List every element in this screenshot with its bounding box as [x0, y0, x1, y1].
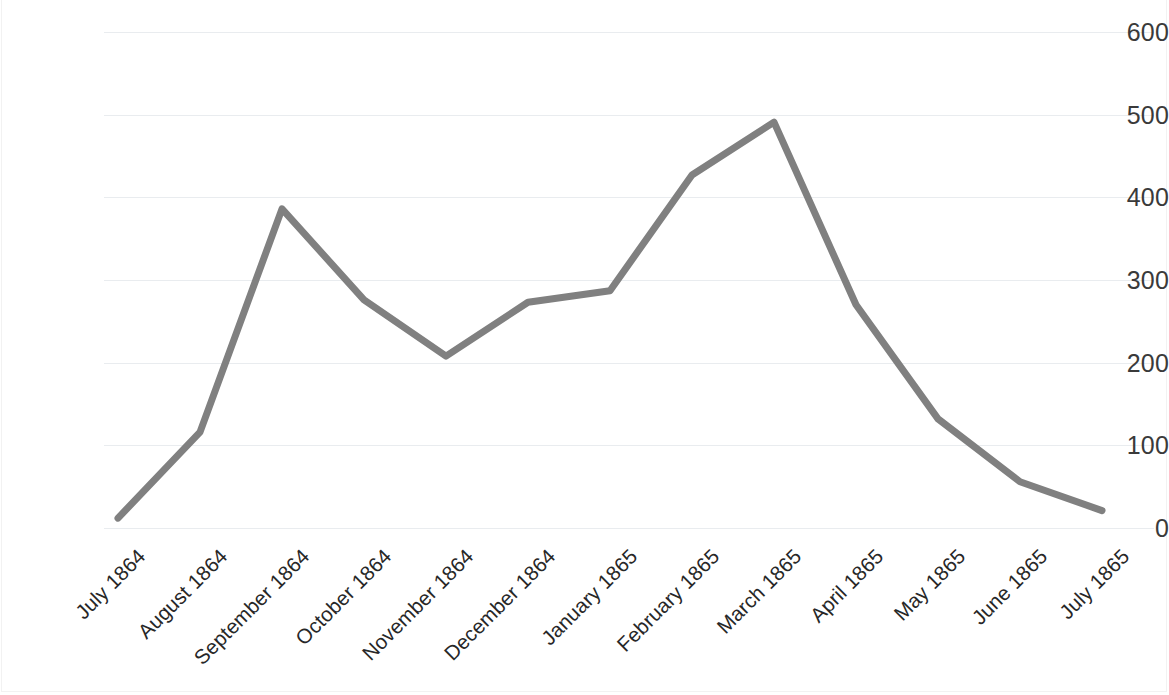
line-chart: 0100200300400500600 July 1864August 1864… [0, 0, 1169, 695]
series-line [118, 122, 1102, 518]
plot-area: 0100200300400500600 July 1864August 1864… [0, 0, 1169, 695]
